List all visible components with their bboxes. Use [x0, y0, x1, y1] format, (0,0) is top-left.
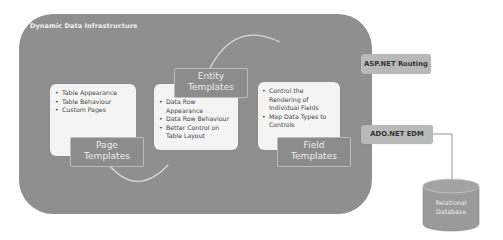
- page-templates-label: Page Templates: [70, 137, 144, 167]
- entity-templates-label: Entity Templates: [174, 68, 248, 98]
- list-item: Data Row Appearance: [158, 98, 226, 115]
- field-templates-label: Field Templates: [277, 137, 351, 167]
- list-item: Data Row Behaviour: [158, 115, 238, 124]
- list-item: Map Data Types to Controls: [261, 113, 335, 130]
- list-item: Custom Pages: [54, 106, 136, 115]
- list-item: Better Control on Table Layout: [158, 124, 232, 141]
- edm-db-connector: [433, 134, 452, 180]
- ado-net-edm-box: ADO.NET EDM: [361, 125, 433, 144]
- list-item: Table Behaviour: [54, 98, 136, 107]
- list-item: Control the Rendering of Individual Fiel…: [261, 87, 331, 113]
- database-label: Relational Database: [421, 199, 481, 216]
- asp-net-routing-box: ASP.NET Routing: [361, 54, 431, 74]
- top-arc-arrow: [210, 35, 280, 68]
- list-item: Table Appearance: [54, 89, 136, 98]
